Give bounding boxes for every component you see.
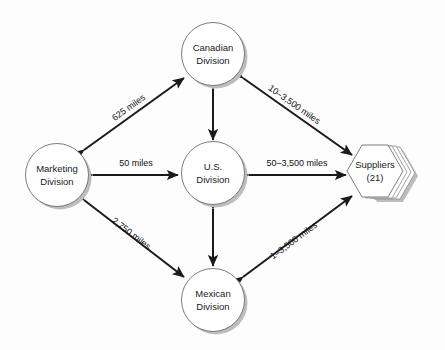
- edge-canadian-suppliers: [243, 78, 352, 155]
- node-suppliers[interactable]: Suppliers (21): [347, 145, 418, 202]
- edge-label-us-suppliers: 50–3,500 miles: [266, 158, 328, 168]
- edge-label-marketing-us: 50 miles: [119, 158, 153, 168]
- marketing-division-label-line2: Division: [40, 176, 73, 187]
- canadian-division-label-line1: Canadian: [193, 42, 234, 53]
- us-division-label-line2: Division: [196, 174, 229, 185]
- mexican-division-label-line1: Mexican: [195, 288, 230, 299]
- edge-label-mexican-suppliers: 1–3,500 miles: [268, 219, 319, 261]
- network-diagram: Canadian Division Marketing Division U.S…: [0, 0, 445, 350]
- us-division-label-line1: U.S.: [204, 161, 222, 172]
- node-mexican-division[interactable]: Mexican Division: [182, 269, 248, 335]
- node-us-division[interactable]: U.S. Division: [182, 142, 248, 208]
- mexican-division-label-line2: Division: [196, 301, 229, 312]
- diagram-canvas: Canadian Division Marketing Division U.S…: [0, 0, 445, 350]
- edge-label-marketing-mexican: 2,750 miles: [110, 216, 153, 252]
- suppliers-label-line2: (21): [367, 172, 384, 183]
- canadian-division-label-line2: Division: [196, 55, 229, 66]
- node-canadian-division[interactable]: Canadian Division: [182, 23, 248, 89]
- node-marketing-division[interactable]: Marketing Division: [26, 144, 92, 210]
- suppliers-label-line1: Suppliers: [355, 159, 395, 170]
- edge-label-canadian-suppliers: 10–3,500 miles: [267, 83, 323, 127]
- edge-marketing-canadian: [84, 78, 184, 150]
- marketing-division-label-line1: Marketing: [36, 163, 78, 174]
